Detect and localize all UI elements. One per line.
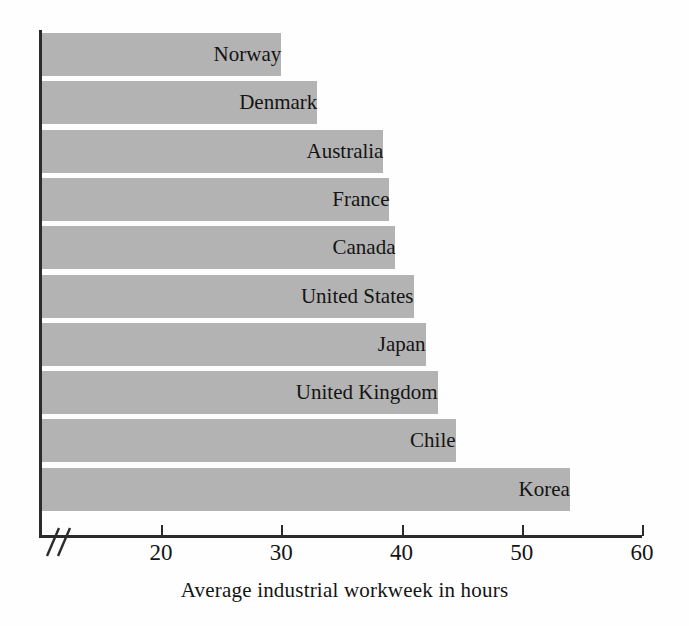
bar-label: Norway [41, 33, 290, 76]
bar-label: France [41, 178, 398, 221]
x-axis-line [39, 535, 642, 538]
x-axis-tick [402, 525, 404, 536]
axis-break-icon [41, 522, 75, 562]
plot-area: NorwayDenmarkAustraliaFranceCanadaUnited… [41, 33, 661, 535]
x-axis-tick-label: 30 [251, 540, 311, 566]
bar-label: Canada [41, 226, 404, 269]
x-axis-tick [522, 525, 524, 536]
x-axis-tick [642, 525, 644, 536]
bar-label: Chile [41, 419, 465, 462]
x-axis-tick [281, 525, 283, 536]
x-axis-tick-label: 50 [492, 540, 552, 566]
bar-label: United Kingdom [41, 371, 447, 414]
bar-label: Denmark [41, 81, 326, 124]
x-axis-title: Average industrial workweek in hours [0, 578, 689, 603]
bar-label: United States [41, 275, 423, 318]
bar-chart-figure: NorwayDenmarkAustraliaFranceCanadaUnited… [0, 0, 689, 626]
x-axis-tick-label: 20 [131, 540, 191, 566]
bar-label: Australia [41, 130, 392, 173]
y-axis-line [39, 30, 42, 538]
bar-label: Japan [41, 323, 435, 366]
x-axis-tick-label: 60 [612, 540, 672, 566]
bar-label: Korea [41, 468, 579, 511]
x-axis-tick [161, 525, 163, 536]
x-axis-tick-label: 40 [372, 540, 432, 566]
